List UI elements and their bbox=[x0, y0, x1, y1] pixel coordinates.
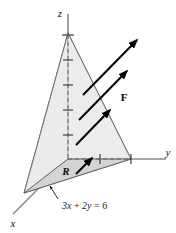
z-axis-label: z bbox=[57, 7, 63, 19]
y-axis-label: y bbox=[165, 146, 171, 158]
field-arrow-1 bbox=[83, 40, 137, 95]
vector-field-label-F: F bbox=[121, 91, 128, 103]
equation-constant: 6 bbox=[102, 200, 107, 211]
equation-equals: = bbox=[92, 200, 103, 211]
equation-plus: + bbox=[71, 200, 82, 211]
plane-equation-label: 3x + 2y = 6 bbox=[61, 200, 107, 211]
equation-leader-line bbox=[50, 186, 58, 199]
x-axis-label: x bbox=[10, 217, 16, 229]
vector-field-tetrahedron-diagram: z y x R F 3x + 2y = 6 bbox=[0, 0, 176, 233]
region-label-R: R bbox=[61, 165, 69, 177]
